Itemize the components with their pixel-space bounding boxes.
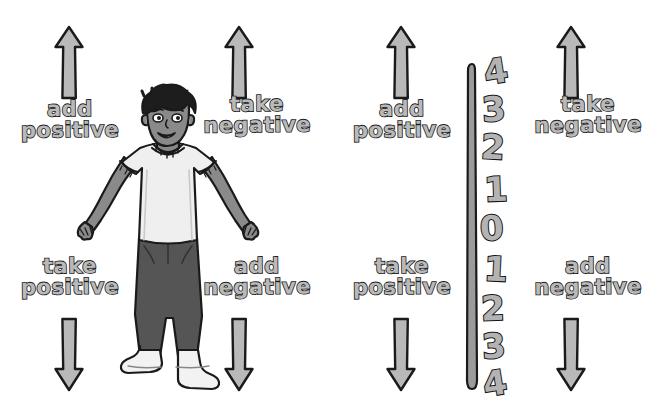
numberline-panel: add positive take negative take positive… — [332, 0, 663, 419]
number-tick-4-positive: 4 — [481, 52, 510, 89]
label-line-2: positive — [342, 120, 462, 143]
shirt — [122, 143, 214, 244]
arrow-down-right-numberline — [556, 317, 586, 391]
number-tick-2-positive: 2 — [480, 129, 505, 164]
label-take-negative-numberline: take negative — [522, 93, 654, 137]
number-tick-1-negative: 1 — [483, 251, 508, 286]
number-tick-2-negative: 2 — [480, 291, 505, 326]
label-take-positive-numberline: take positive — [342, 255, 462, 299]
standing-person-figure — [78, 88, 258, 378]
shoe-right — [178, 350, 219, 389]
number-tick-3-positive: 3 — [481, 91, 507, 127]
label-line-2: negative — [522, 115, 654, 138]
label-line-2: positive — [342, 277, 462, 300]
person-panel: add positive take negative take positive… — [0, 0, 332, 419]
arrow-up-right-numberline — [556, 26, 586, 100]
shoe-left — [121, 346, 162, 373]
number-tick-zero: 0 — [479, 210, 505, 246]
label-line-2: negative — [522, 277, 654, 300]
number-tick-4-negative: 4 — [480, 364, 509, 401]
arrow-up-left-numberline — [386, 26, 416, 100]
label-add-negative-numberline: add negative — [522, 255, 654, 299]
diagram-canvas: add positive take negative take positive… — [0, 0, 663, 419]
arrow-down-left-numberline — [386, 317, 416, 391]
number-tick-3-negative: 3 — [481, 328, 507, 364]
number-tick-1-positive: 1 — [483, 172, 508, 207]
label-add-positive-numberline: add positive — [342, 98, 462, 142]
